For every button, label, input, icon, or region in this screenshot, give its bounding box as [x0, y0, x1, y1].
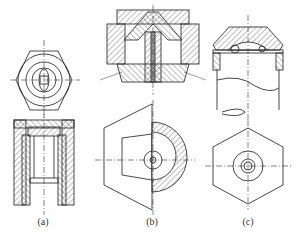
view-b-section	[100, 5, 206, 95]
engineering-drawing	[0, 0, 299, 242]
view-c-label: (c)	[242, 216, 253, 227]
view-c-plan	[205, 120, 292, 210]
view-c-section	[213, 15, 283, 120]
view-a-label: (a)	[37, 216, 48, 227]
view-a-hex-plan	[10, 40, 80, 118]
view-a-section	[14, 112, 74, 215]
view-b-label: (b)	[146, 216, 158, 227]
view-b-plan	[95, 100, 195, 215]
